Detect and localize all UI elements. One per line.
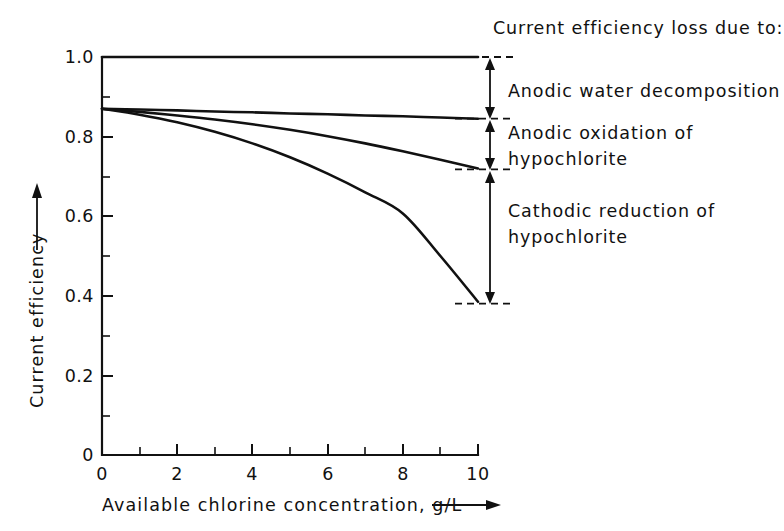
y-tick-label: 0.2	[65, 366, 94, 386]
measure-arrow-cathodic-reduction	[485, 171, 495, 304]
current-efficiency-chart: 1.0 0.8 0.6 0.4 0.2 0 0 2 4 6 8 10 Avail…	[0, 0, 784, 531]
x-tick-label: 0	[96, 464, 108, 484]
curve-cathodic-reduction-hypochlorite	[102, 109, 478, 302]
annotation-anodic-oxidation-line2: hypochlorite	[508, 149, 628, 169]
x-axis-arrow-icon	[486, 500, 501, 510]
y-tick-label: 0.4	[65, 286, 94, 306]
x-axis-title: Available chlorine concentration, g/L	[102, 495, 462, 515]
x-tick-label: 2	[171, 464, 183, 484]
annotation-anodic-oxidation-line1: Anodic oxidation of	[508, 123, 693, 143]
x-tick-label: 4	[246, 464, 258, 484]
annotation-anodic-water-decomposition: Anodic water decomposition	[508, 81, 780, 101]
x-tick-label: 6	[322, 464, 334, 484]
x-tick-labels: 0 2 4 6 8 10	[96, 464, 489, 484]
y-axis-arrow-icon	[32, 183, 42, 198]
x-tick-label: 8	[397, 464, 409, 484]
y-tick-labels: 1.0 0.8 0.6 0.4 0.2 0	[65, 47, 94, 465]
leader-lines-group	[455, 57, 515, 304]
curves-group	[102, 57, 478, 302]
y-tick-label: 1.0	[65, 47, 94, 67]
measure-arrow-anodic-water-decomposition	[485, 58, 495, 119]
measure-arrows-group	[485, 58, 495, 304]
figure-container: 1.0 0.8 0.6 0.4 0.2 0 0 2 4 6 8 10 Avail…	[0, 0, 784, 531]
annotations-group: Current efficiency loss due to: Anodic w…	[493, 18, 783, 247]
x-tick-label: 10	[466, 464, 489, 484]
annotation-cathodic-reduction-line1: Cathodic reduction of	[508, 201, 715, 221]
annotation-cathodic-reduction-line2: hypochlorite	[508, 227, 628, 247]
x-axis-title-group: Available chlorine concentration, g/L	[102, 495, 501, 515]
annotation-heading: Current efficiency loss due to:	[493, 18, 783, 38]
y-minor-ticks	[102, 97, 110, 416]
y-axis-title: Current efficiency	[27, 233, 47, 408]
y-tick-label: 0.8	[65, 127, 94, 147]
y-tick-label: 0.6	[65, 206, 94, 226]
y-axis-title-group: Current efficiency	[27, 183, 47, 408]
x-minor-ticks	[140, 447, 440, 455]
measure-arrow-anodic-oxidation	[485, 120, 495, 170]
y-tick-label: 0	[82, 445, 94, 465]
